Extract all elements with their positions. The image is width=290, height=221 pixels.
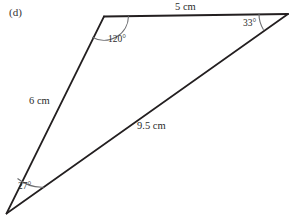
angle-arc-top-right [259,14,264,30]
top-side-line [104,14,288,17]
left-side-length-label: 6 cm [29,96,50,107]
diagonal-side-length-label: 9.5 cm [137,121,166,132]
angle-label-top-right: 33° [243,19,256,29]
geometry-diagram [0,0,290,221]
diagonal-side-line [7,14,289,214]
angle-label-bottom-left: 27° [18,182,31,192]
top-side-length-label: 5 cm [175,2,196,13]
geometry-figure: (d) 5 cm 6 cm 9.5 cm 120° 33° 27° [0,0,290,221]
part-label: (d) [9,7,22,18]
angle-label-top-left: 120° [108,35,126,45]
